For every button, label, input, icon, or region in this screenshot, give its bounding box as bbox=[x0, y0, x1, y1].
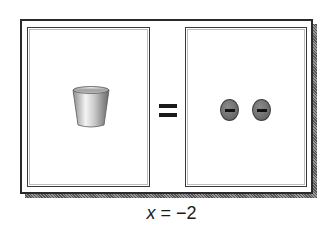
equals-top-bar bbox=[159, 104, 177, 108]
minus-icon bbox=[225, 109, 235, 112]
negative-counter-icon bbox=[220, 99, 239, 121]
right-side-panel bbox=[185, 27, 307, 187]
equals-bottom-bar bbox=[159, 113, 177, 117]
equation-caption: x = −2 bbox=[0, 203, 333, 224]
cup-icon bbox=[71, 85, 111, 129]
minus-icon bbox=[257, 109, 267, 112]
caption-value: −2 bbox=[176, 203, 197, 223]
caption-equals: = bbox=[155, 203, 176, 223]
equals-sign bbox=[159, 104, 177, 118]
negative-counter-icon bbox=[252, 99, 271, 121]
